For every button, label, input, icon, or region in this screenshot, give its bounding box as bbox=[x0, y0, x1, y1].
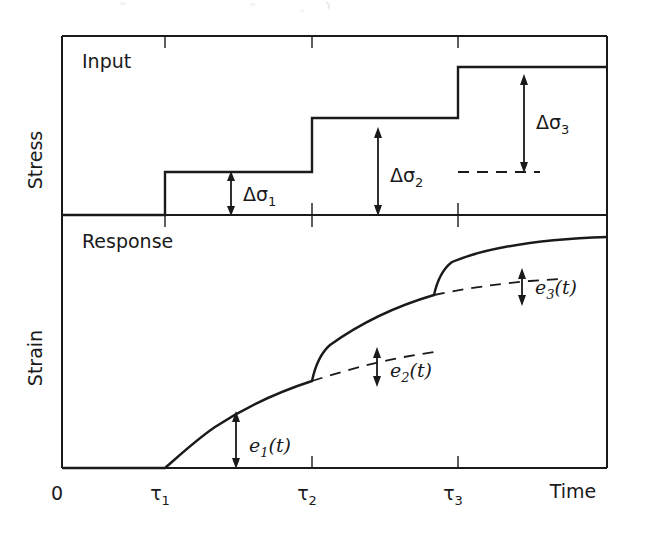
delta-sigma-1-label: Δσ1 bbox=[243, 183, 276, 209]
delta-sigma-3-arrow bbox=[520, 74, 528, 173]
x-axis-ticks bbox=[312, 456, 458, 468]
delta-sigma-3-base: Δσ bbox=[536, 111, 561, 133]
stress-step-curve bbox=[62, 67, 607, 215]
response-panel-label: Response bbox=[82, 230, 173, 252]
tau2-base: τ bbox=[297, 482, 308, 504]
delta-sigma-2-label: Δσ2 bbox=[390, 164, 423, 190]
x-axis-origin-label: 0 bbox=[51, 482, 63, 504]
delta-sigma-3-sub: 3 bbox=[561, 122, 569, 137]
delta-sigma-2-sub: 2 bbox=[415, 175, 423, 190]
e1-arg: (t) bbox=[269, 434, 291, 456]
x-axis-tick-label-tau2: τ2 bbox=[297, 482, 317, 508]
delta-sigma-1-base: Δσ bbox=[243, 183, 268, 205]
input-panel-frame bbox=[62, 36, 607, 215]
e3-label: e3(t) bbox=[535, 276, 577, 302]
tau1-sub: 1 bbox=[162, 493, 170, 508]
delta-sigma-1-sub: 1 bbox=[268, 194, 276, 209]
e2-arrow bbox=[373, 347, 381, 387]
e3-arrow bbox=[518, 268, 526, 306]
panel-divider bbox=[62, 203, 607, 227]
input-panel-label: Input bbox=[82, 50, 131, 72]
e3-arg: (t) bbox=[555, 276, 577, 298]
strain-response-curve bbox=[62, 237, 607, 468]
x-axis-title: Time bbox=[549, 480, 597, 502]
delta-sigma-2-arrow bbox=[374, 127, 382, 216]
figure-canvas: Input Stress Δσ1 Δσ2 bbox=[0, 0, 669, 536]
e2-arg: (t) bbox=[410, 359, 432, 381]
tau3-sub: 3 bbox=[455, 493, 463, 508]
e2-label: e2(t) bbox=[390, 359, 432, 385]
cropped-text-remnant bbox=[120, 2, 329, 12]
delta-sigma-1-arrow bbox=[227, 171, 235, 216]
delta-sigma-2-base: Δσ bbox=[390, 164, 415, 186]
x-axis-tick-label-tau1: τ1 bbox=[150, 482, 170, 508]
input-panel-top-ticks bbox=[165, 36, 458, 48]
e1-sub: 1 bbox=[260, 445, 268, 460]
e3-sub: 3 bbox=[546, 287, 554, 302]
x-axis-tick-label-tau3: τ3 bbox=[443, 482, 463, 508]
e1-label: e1(t) bbox=[249, 434, 291, 460]
e2-sub: 2 bbox=[400, 370, 409, 385]
delta-sigma-3-label: Δσ3 bbox=[536, 111, 569, 137]
e1-base: e bbox=[249, 434, 260, 456]
tau2-sub: 2 bbox=[309, 493, 317, 508]
tau3-base: τ bbox=[443, 482, 454, 504]
e2-base: e bbox=[390, 359, 401, 381]
e1-arrow bbox=[232, 411, 240, 469]
tau1-base: τ bbox=[150, 482, 161, 504]
stress-axis-title: Stress bbox=[24, 131, 46, 189]
strain-axis-title: Strain bbox=[24, 330, 46, 386]
e3-base: e bbox=[535, 276, 546, 298]
figure-root: Input Stress Δσ1 Δσ2 bbox=[0, 0, 669, 536]
